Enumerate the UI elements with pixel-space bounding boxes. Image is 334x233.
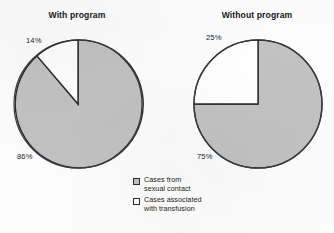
- legend-item-sexual-contact: Cases from sexual contact: [133, 176, 243, 193]
- pie-with-program-svg: [12, 38, 144, 170]
- pie-chart-with-program: [12, 38, 144, 170]
- legend-item-transfusion: Cases associated with transfusion: [133, 196, 243, 213]
- pct-label-with-program-transfusion: 14%: [26, 36, 42, 45]
- pct-label-with-program-sexual: 86%: [17, 152, 33, 161]
- legend-label-line2: sexual contact: [144, 185, 191, 194]
- figure-canvas: With program 14% 86% Without program 25%…: [0, 0, 334, 233]
- pct-label-without-program-sexual: 75%: [197, 152, 213, 161]
- legend-swatch-hollow-icon: [133, 198, 140, 205]
- legend-swatch-filled-icon: [133, 178, 140, 185]
- slice-transfusion: [194, 40, 258, 104]
- legend: Cases from sexual contact Cases associat…: [133, 176, 243, 216]
- chart-title-without-program: Without program: [196, 10, 318, 20]
- legend-label-line2: with transfusion: [144, 205, 202, 214]
- pct-label-without-program-transfusion: 25%: [206, 33, 222, 42]
- legend-label-sexual-contact: Cases from sexual contact: [144, 176, 191, 193]
- legend-label-transfusion: Cases associated with transfusion: [144, 196, 202, 213]
- pie-chart-without-program: [192, 38, 324, 170]
- chart-title-with-program: With program: [16, 10, 138, 20]
- pie-without-program-svg: [192, 38, 324, 170]
